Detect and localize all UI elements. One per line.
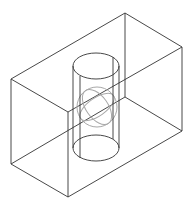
box-edge — [125, 97, 182, 131]
box-wireframe — [11, 13, 182, 197]
box-edge — [11, 164, 68, 197]
box-edge — [11, 79, 68, 112]
sphere — [75, 84, 118, 129]
box-edge — [11, 13, 125, 79]
box-edge — [68, 131, 182, 197]
sphere-meridian — [77, 84, 118, 129]
cylinder — [73, 53, 119, 161]
box-edge — [125, 13, 182, 47]
cylinder-top — [73, 53, 119, 79]
wireframe-diagram — [0, 0, 191, 202]
